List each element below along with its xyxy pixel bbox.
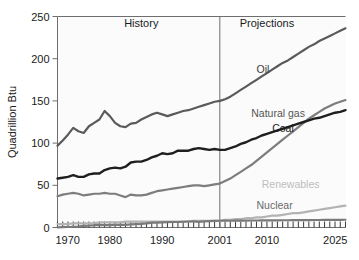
y-tick-label-50: 50	[37, 179, 49, 191]
series-label-renewables: Renewables	[262, 178, 320, 190]
series-label-coal: Coal	[272, 122, 294, 134]
y-axis-title: Quadrillion Btu	[6, 86, 18, 158]
x-tick-label-2010: 2010	[255, 234, 279, 246]
annotation-history: History	[124, 17, 159, 29]
series-label-oil: Oil	[256, 63, 269, 75]
y-tick-label-100: 100	[31, 137, 49, 149]
energy-consumption-chart: 050100150200250 197019801990200120102025…	[0, 0, 359, 260]
x-tick-label-1980: 1980	[98, 234, 122, 246]
y-tick-label-150: 150	[31, 95, 49, 107]
x-tick-label-2001: 2001	[208, 234, 232, 246]
series-label-natural-gas: Natural gas	[251, 107, 305, 119]
chart-canvas: 050100150200250 197019801990200120102025…	[0, 0, 359, 260]
annotation-projections: Projections	[240, 17, 295, 29]
y-axis-title-text: Quadrillion Btu	[6, 86, 18, 158]
y-axis-tick-labels: 050100150200250	[31, 11, 49, 234]
x-tick-label-1990: 1990	[150, 234, 174, 246]
x-tick-label-1970: 1970	[56, 234, 80, 246]
y-tick-label-0: 0	[43, 222, 49, 234]
x-tick-label-2025: 2025	[323, 234, 347, 246]
series-label-nuclear: Nuclear	[256, 199, 293, 211]
y-tick-label-250: 250	[31, 11, 49, 23]
x-axis-tick-labels: 197019801990200120102025	[56, 234, 348, 246]
y-tick-label-200: 200	[31, 53, 49, 65]
